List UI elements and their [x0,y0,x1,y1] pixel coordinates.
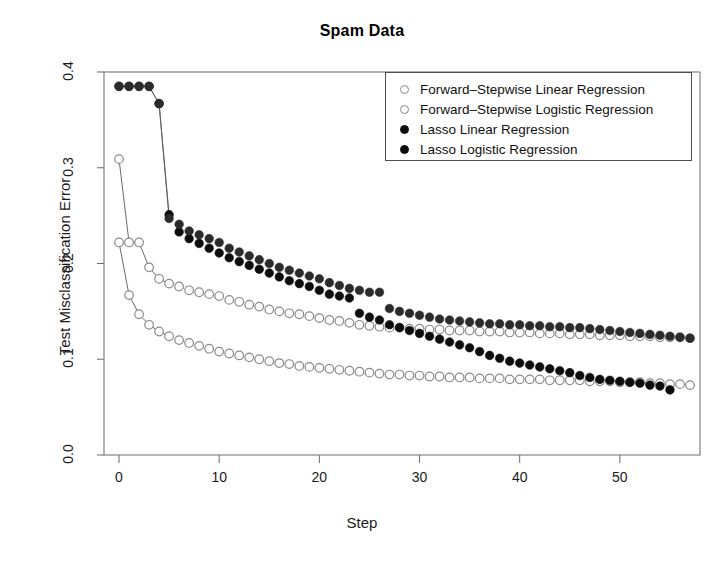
data-point [565,368,574,377]
data-point [265,357,274,366]
data-point [245,261,254,270]
data-point [305,282,314,291]
data-point [215,292,224,301]
data-point [505,320,514,329]
data-point [355,367,364,376]
data-point [265,259,274,268]
data-point [195,239,204,248]
data-point [375,369,384,378]
data-point [205,344,214,353]
data-point [525,361,534,370]
x-tick-label: 20 [299,469,339,485]
data-point [435,335,444,344]
y-axis-label: Test Misclassification Error [56,97,73,437]
data-point [165,332,174,341]
data-point [415,371,424,380]
data-point [365,288,374,297]
data-point [215,238,224,247]
data-point [305,363,314,372]
data-point [445,373,454,382]
data-point [435,325,444,334]
data-point [676,333,685,342]
data-point [375,316,384,325]
data-point [185,227,194,236]
data-point [325,290,334,299]
data-point [576,323,585,332]
data-point [405,371,414,380]
data-point [495,327,504,336]
legend-item-1[interactable]: Forward–Stepwise Linear Regression [386,79,691,99]
data-point [135,310,144,319]
data-point [285,360,294,369]
data-point [465,318,474,327]
data-point [295,362,304,371]
data-point [265,305,274,314]
data-point [385,320,394,329]
series-2 [115,238,695,389]
data-point [555,376,564,385]
data-point [385,370,394,379]
data-point [265,269,274,278]
data-point [175,220,184,229]
data-point [315,364,324,373]
data-point [465,343,474,352]
data-point [686,381,695,390]
data-point [345,294,354,303]
series-1 [115,155,695,343]
data-point [485,351,494,360]
data-point [135,238,144,247]
data-point [596,375,605,384]
data-point [616,377,625,386]
data-point [285,276,294,285]
data-point [565,323,574,332]
data-point [405,326,414,335]
x-tick-label: 10 [199,469,239,485]
data-point [235,351,244,360]
data-point [425,313,434,322]
open-circle-icon [400,105,409,114]
data-point [125,291,134,300]
data-point [495,374,504,383]
data-point [405,309,414,318]
data-point [485,327,494,336]
data-point [335,292,344,301]
y-tick-label: 0.0 [60,433,76,475]
data-point [325,316,334,325]
data-point [205,290,214,299]
data-point [215,249,224,258]
data-point [676,380,685,389]
data-point [365,313,374,322]
data-point [285,309,294,318]
legend: Forward–Stepwise Linear RegressionForwar… [385,72,692,161]
data-point [295,269,304,278]
data-point [185,339,194,348]
x-tick-label: 40 [500,469,540,485]
data-point [616,327,625,336]
data-point [195,342,204,351]
data-point [455,317,464,326]
legend-item-3[interactable]: Lasso Linear Regression [386,119,691,139]
data-point [626,378,635,387]
filled-circle-icon [400,125,409,134]
data-point [275,307,284,316]
legend-item-label: Forward–Stepwise Logistic Regression [420,102,653,117]
data-point [545,322,554,331]
data-point [475,319,484,328]
data-point [475,374,484,383]
data-point [656,382,665,391]
data-point [395,307,404,316]
legend-item-4[interactable]: Lasso Logistic Regression [386,139,691,159]
data-point [505,357,514,366]
data-point [125,82,134,91]
data-point [215,347,224,356]
data-point [445,338,454,347]
data-point [485,320,494,329]
data-point [255,355,264,364]
data-point [505,328,514,337]
data-point [636,379,645,388]
data-point [155,275,164,284]
legend-item-label: Lasso Logistic Regression [420,142,578,157]
legend-item-label: Lasso Linear Regression [420,122,569,137]
legend-item-2[interactable]: Forward–Stepwise Logistic Regression [386,99,691,119]
data-point [415,329,424,338]
